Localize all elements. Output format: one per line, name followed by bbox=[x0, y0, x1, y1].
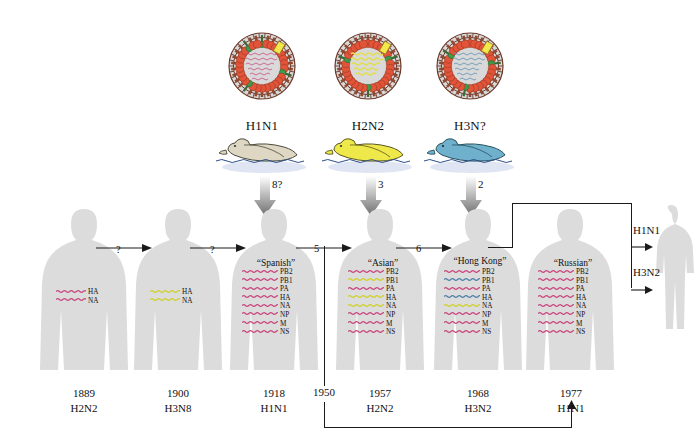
gene-label-pb1: PB1 bbox=[576, 277, 589, 286]
subtype-1918: H1N1 bbox=[229, 401, 319, 416]
gene-label-pb1: PB1 bbox=[280, 277, 293, 286]
transfer-arrow-label-1957: 3 bbox=[378, 178, 384, 190]
gene-label-m: M bbox=[482, 320, 489, 329]
gene-row-na: NA bbox=[56, 297, 99, 306]
gene-segments-1977: PB2PB1PAHANANPMNS bbox=[538, 268, 589, 337]
avian-subtype-label-h1n1: H1N1 bbox=[212, 118, 312, 134]
gene-label-m: M bbox=[280, 320, 287, 329]
year-1977: 1977 bbox=[526, 386, 616, 401]
gene-wave-na-icon bbox=[56, 296, 88, 306]
strain-name-1918: “Spanish” bbox=[236, 258, 316, 268]
year-block-1889: 1889 H2N2 bbox=[39, 386, 129, 416]
gene-row-na: NA bbox=[150, 297, 193, 306]
cocirculation-bracket-stub bbox=[488, 247, 513, 248]
lineage-arrow-label-3: 5 bbox=[314, 243, 319, 254]
gene-wave-na-icon bbox=[150, 296, 182, 306]
gene-label-ha: HA bbox=[88, 288, 99, 297]
year-1957: 1957 bbox=[335, 386, 425, 401]
gene-label-pb1: PB1 bbox=[386, 277, 399, 286]
gene-label-na: NA bbox=[386, 302, 397, 311]
gene-row-ns: NS bbox=[348, 328, 399, 337]
gene-label-np: NP bbox=[576, 311, 585, 320]
gene-segments-1918: PB2PB1PAHANANPMNS bbox=[242, 268, 293, 337]
cocirculation-bracket-left bbox=[512, 203, 513, 247]
gene-label-np: NP bbox=[280, 311, 289, 320]
figure-canvas: H1N1 H2N2 H3N? bbox=[0, 0, 700, 440]
subtype-1968: H3N2 bbox=[433, 401, 523, 416]
gene-wave-ns-icon bbox=[348, 328, 386, 338]
gene-label-na: NA bbox=[88, 297, 99, 306]
duck-h1n1 bbox=[214, 133, 314, 173]
gene-label-np: NP bbox=[386, 311, 395, 320]
gene-label-pb2: PB2 bbox=[482, 268, 495, 277]
duck-h2n2 bbox=[320, 133, 420, 173]
subtype-1889: H2N2 bbox=[39, 401, 129, 416]
gene-row-ns: NS bbox=[444, 328, 495, 337]
avian-subtype-label-h2n2: H2N2 bbox=[318, 118, 418, 134]
gene-label-pa: PA bbox=[576, 285, 585, 294]
transfer-arrow-label-1968: 2 bbox=[478, 178, 484, 190]
subtype-1957: H2N2 bbox=[335, 401, 425, 416]
gene-label-ha: HA bbox=[386, 294, 397, 303]
gene-label-pa: PA bbox=[482, 285, 491, 294]
lineage-arrow-label-4: 6 bbox=[416, 243, 421, 254]
virion-h1n1 bbox=[212, 16, 312, 116]
cocirculation-label-h1n1: H1N1 bbox=[633, 224, 660, 236]
duck-h3n bbox=[422, 133, 522, 173]
gene-label-m: M bbox=[576, 320, 583, 329]
gene-label-na: NA bbox=[280, 302, 291, 311]
gene-label-pb2: PB2 bbox=[386, 268, 399, 277]
gene-label-na: NA bbox=[182, 297, 193, 306]
feedback-line-bottom bbox=[324, 427, 572, 428]
gene-label-ns: NS bbox=[386, 328, 395, 337]
feedback-line-left bbox=[324, 402, 325, 428]
lineage-arrow-4 bbox=[396, 240, 452, 252]
lineage-arrow-1 bbox=[96, 240, 152, 252]
gene-row-ns: NS bbox=[242, 328, 293, 337]
gene-label-pb1: PB1 bbox=[482, 277, 495, 286]
year-block-1900: 1900 H3N8 bbox=[133, 386, 223, 416]
gene-label-ha: HA bbox=[482, 294, 493, 303]
gene-segments-1968: PB2PB1PAHANANPMNS bbox=[444, 268, 495, 337]
transfer-arrow-label-1918: 8? bbox=[272, 178, 282, 190]
gene-label-ns: NS bbox=[576, 328, 585, 337]
gene-label-pb2: PB2 bbox=[576, 268, 589, 277]
cocirculation-label-h3n2: H3N2 bbox=[633, 266, 660, 278]
gene-wave-ns-icon bbox=[242, 328, 280, 338]
lineage-arrow-label-1: ? bbox=[116, 244, 121, 255]
gene-label-na: NA bbox=[576, 302, 587, 311]
gene-label-m: M bbox=[386, 320, 393, 329]
gene-label-na: NA bbox=[482, 302, 493, 311]
virion-h3n bbox=[420, 16, 520, 116]
year-block-1957: 1957 H2N2 bbox=[335, 386, 425, 416]
subtype-1977: H1N1 bbox=[526, 401, 616, 416]
timeline-marker-line bbox=[324, 246, 325, 386]
gene-wave-ns-icon bbox=[538, 328, 576, 338]
strain-name-1968: “Hong Kong” bbox=[440, 256, 520, 266]
gene-segments-1900: HANA bbox=[150, 288, 193, 305]
gene-label-pa: PA bbox=[386, 285, 395, 294]
subtype-1900: H3N8 bbox=[133, 401, 223, 416]
lineage-arrow-2 bbox=[190, 240, 246, 252]
gene-label-ha: HA bbox=[576, 294, 587, 303]
virion-h2n2 bbox=[318, 16, 418, 116]
gene-label-ns: NS bbox=[482, 328, 491, 337]
year-block-1968: 1968 H3N2 bbox=[433, 386, 523, 416]
cocirculation-arrow-h1n1 bbox=[631, 239, 653, 251]
strain-name-1957: “Asian” bbox=[343, 258, 423, 268]
gene-label-ns: NS bbox=[280, 328, 289, 337]
gene-label-ha: HA bbox=[182, 288, 193, 297]
year-1918: 1918 bbox=[229, 386, 319, 401]
year-1889: 1889 bbox=[39, 386, 129, 401]
cocirculation-bracket-top bbox=[512, 203, 632, 204]
lineage-arrow-label-2: ? bbox=[210, 244, 215, 255]
avian-subtype-label-h3n: H3N? bbox=[420, 118, 520, 134]
gene-segments-1957: PB2PB1PAHANANPMNS bbox=[348, 268, 399, 337]
year-1900: 1900 bbox=[133, 386, 223, 401]
cocirculation-arrow-h3n2 bbox=[631, 282, 653, 294]
gene-row-ns: NS bbox=[538, 328, 589, 337]
gene-label-pa: PA bbox=[280, 285, 289, 294]
year-block-1977: 1977 H1N1 bbox=[526, 386, 616, 416]
year-1968: 1968 bbox=[433, 386, 523, 401]
gene-label-pb2: PB2 bbox=[280, 268, 293, 277]
